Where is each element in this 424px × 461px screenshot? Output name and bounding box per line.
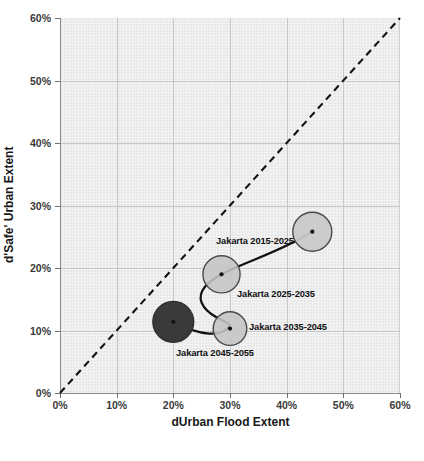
figure-container: 60% 50% 40% 30% 20% 10% 0% 0% 10% 20% 30… [0,0,424,461]
x-tick-mark [173,393,174,398]
y-axis-title: d'Safe' Urban Extent [2,120,20,290]
x-tick-label: 60% [378,399,422,411]
x-tick-label: 40% [265,399,309,411]
y-axis-line [60,18,61,394]
y-tick-label: 0% [6,387,51,399]
bubble-label-2015-2025: Jakarta 2015-2025 [216,236,294,246]
gridline-horizontal [60,81,400,82]
bubble-label-2035-2045: Jakarta 2035-2045 [249,322,327,332]
x-tick-mark [117,393,118,398]
y-tick-label: 10% [6,325,51,337]
x-tick-mark [287,393,288,398]
x-tick-mark [60,393,61,398]
x-tick-label: 10% [95,399,139,411]
x-axis-title: dUrban Flood Extent [60,415,401,429]
x-tick-label: 0% [38,399,82,411]
y-tick-mark [55,143,60,144]
plot-area [60,18,400,393]
x-tick-mark [230,393,231,398]
x-tick-label: 20% [151,399,195,411]
figure-caption [6,452,418,461]
y-tick-mark [55,18,60,19]
y-tick-mark [55,268,60,269]
y-tick-mark [55,206,60,207]
y-tick-label: 50% [6,75,51,87]
bubble-label-2025-2035: Jakarta 2025-2035 [237,289,315,299]
x-tick-mark [400,393,401,398]
x-tick-label: 30% [208,399,252,411]
gridline-horizontal [60,206,400,207]
x-tick-label: 50% [321,399,365,411]
y-tick-mark [55,331,60,332]
gridline-horizontal [60,143,400,144]
gridline-horizontal [60,331,400,332]
y-tick-label: 60% [6,12,51,24]
x-tick-mark [343,393,344,398]
gridline-horizontal [60,268,400,269]
bubble-label-2045-2055: Jakarta 2045-2055 [176,348,254,358]
y-tick-mark [55,81,60,82]
